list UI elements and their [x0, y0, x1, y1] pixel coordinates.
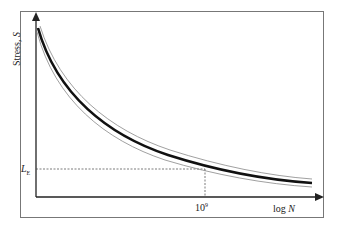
x-tick-10-9: 109 — [195, 202, 208, 213]
x-axis-label: log N — [273, 203, 295, 214]
y-tick-endurance-limit: LE — [21, 163, 30, 176]
lower-band-curve — [37, 32, 312, 187]
mean-sn-curve — [38, 28, 312, 183]
y-axis-arrow-icon — [32, 12, 40, 21]
x-axis-arrow-icon — [315, 193, 324, 201]
y-axis-label: Stress, S — [11, 32, 22, 66]
sn-curve-plot — [0, 0, 342, 226]
